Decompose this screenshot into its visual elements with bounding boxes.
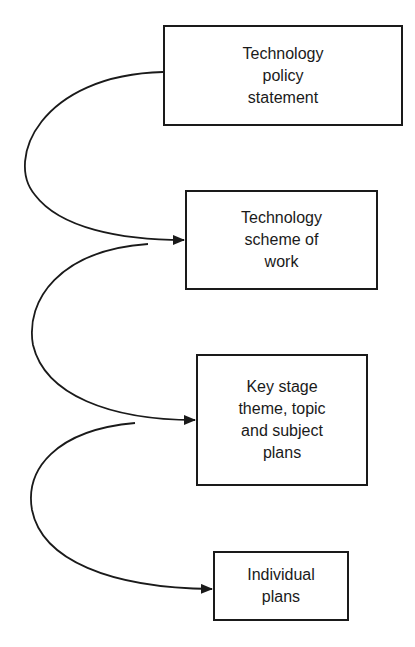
node-label: Individual plans (247, 564, 315, 608)
node-technology-scheme-of-work: Technology scheme of work (185, 190, 378, 290)
node-key-stage-plans: Key stage theme, topic and subject plans (196, 354, 368, 486)
node-label: Technology policy statement (243, 43, 324, 109)
node-individual-plans: Individual plans (213, 551, 349, 621)
node-label: Key stage theme, topic and subject plans (238, 376, 325, 464)
node-technology-policy-statement: Technology policy statement (163, 25, 403, 126)
arrow-policy-to-scheme (25, 72, 184, 240)
arrow-keystage-to-individual (31, 423, 212, 589)
node-label: Technology scheme of work (241, 207, 322, 273)
arrow-scheme-to-keystage (32, 244, 195, 420)
